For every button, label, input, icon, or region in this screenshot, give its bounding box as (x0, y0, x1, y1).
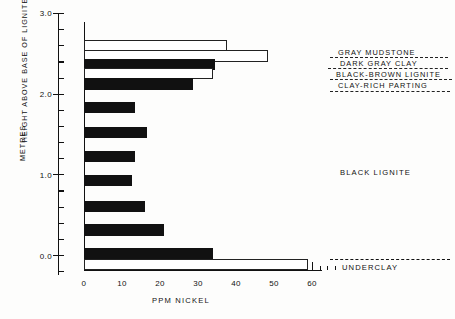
y-tick-label-3: 3.0 (26, 9, 52, 18)
y-major-tick (53, 94, 64, 95)
y-major-tick (53, 174, 64, 175)
x-tick-label-20: 20 (149, 279, 171, 288)
x-minor-tick (335, 266, 336, 271)
y-tick-label-1: 1.0 (26, 171, 52, 180)
y-minor-tick (58, 190, 64, 191)
annotation-black-lignite: BLACK LIGNITE (340, 168, 411, 177)
x-major-tick (312, 262, 313, 270)
x-tick-label-60: 60 (301, 279, 323, 288)
bar-8 (84, 175, 132, 187)
y-axis-line (58, 13, 59, 275)
leader-line-black-brown-lignite (330, 79, 452, 80)
x-tick-label-40: 40 (225, 279, 247, 288)
x-tick-label-50: 50 (263, 279, 285, 288)
y-axis-units: METRES (18, 125, 27, 161)
y-minor-tick (58, 29, 64, 30)
y-minor-tick (58, 239, 64, 240)
leader-line-clay-rich-parting (330, 91, 450, 92)
bar-7 (84, 151, 135, 163)
y-minor-tick (58, 158, 64, 159)
y-major-tick (53, 255, 64, 256)
leader-line-dark-gray-clay (328, 68, 448, 69)
annotation-underclay: UNDERCLAY (342, 263, 398, 272)
y-minor-tick (58, 78, 64, 79)
y-tick-label-0: 0.0 (26, 252, 52, 261)
bar-6 (84, 127, 147, 139)
x-tick-label-30: 30 (187, 279, 209, 288)
y-minor-tick (58, 142, 64, 143)
x-minor-tick (320, 266, 321, 271)
bar-12 (84, 259, 308, 271)
x-minor-tick (327, 266, 328, 271)
x-axis-title: PPM NICKEL (152, 296, 210, 305)
annotation-clay-rich-parting: CLAY-RICH PARTING (338, 81, 428, 90)
annotation-gray-mudstone: GRAY MUDSTONE (338, 48, 415, 57)
bar-10 (84, 224, 164, 236)
y-minor-tick (58, 61, 64, 62)
bar-4 (84, 78, 193, 90)
chart-figure: HEIGHT ABOVE BASE OF LIGNITE METRES 3.0 … (0, 0, 455, 319)
x-tick-label-10: 10 (111, 279, 133, 288)
annotation-dark-gray-clay: DARK GRAY CLAY (340, 59, 418, 68)
y-minor-tick (58, 126, 64, 127)
y-minor-tick (58, 45, 64, 46)
y-minor-tick (58, 223, 64, 224)
x-tick-label-0: 0 (73, 279, 95, 288)
y-minor-tick (58, 271, 64, 272)
plot-area: HEIGHT ABOVE BASE OF LIGNITE METRES 3.0 … (0, 0, 455, 319)
y-minor-tick (58, 207, 64, 208)
y-major-tick (53, 13, 64, 14)
leader-line-underclay (330, 259, 450, 260)
bar-11 (84, 248, 213, 260)
y-tick-label-2: 2.0 (26, 90, 52, 99)
bar-5 (84, 102, 135, 114)
bar-9 (84, 201, 145, 213)
leader-line-gray-mudstone (330, 57, 448, 58)
y-minor-tick (58, 110, 64, 111)
annotation-black-brown-lignite: BLACK-BROWN LIGNITE (336, 70, 441, 79)
